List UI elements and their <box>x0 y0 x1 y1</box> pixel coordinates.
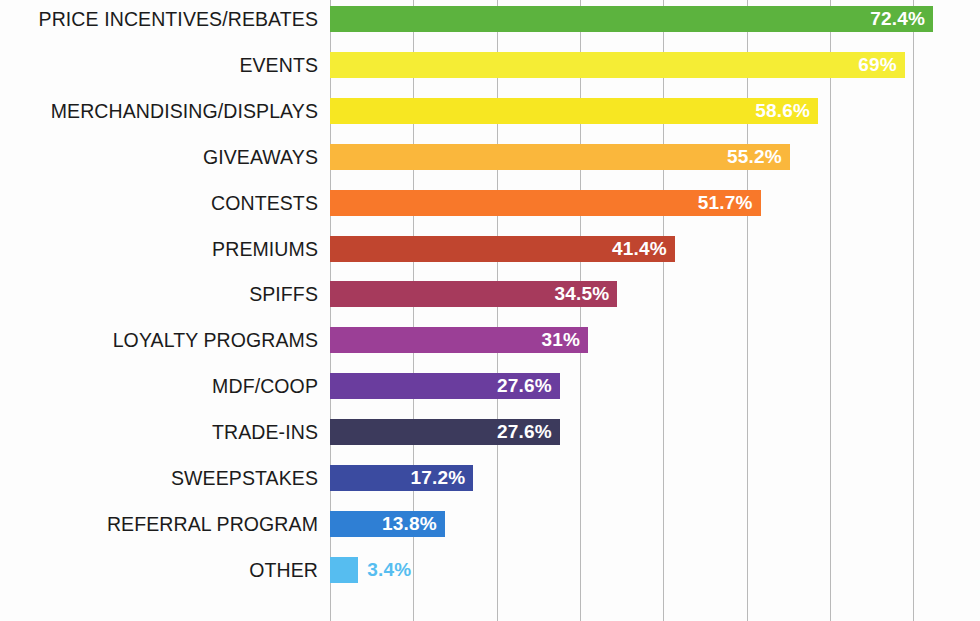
category-label: GIVEAWAYS <box>0 144 318 170</box>
bar-value-label: 31% <box>542 329 589 351</box>
bar-container: 27.6% <box>330 419 560 445</box>
category-label: REFERRAL PROGRAM <box>0 511 318 537</box>
category-label: MDF/COOP <box>0 373 318 399</box>
bar[interactable]: 27.6% <box>330 419 560 445</box>
bar-container: 55.2% <box>330 144 790 170</box>
bar-value-label: 51.7% <box>698 192 761 214</box>
bar-row: SWEEPSTAKES17.2% <box>0 465 980 491</box>
category-label: EVENTS <box>0 52 318 78</box>
bar-container: 72.4% <box>330 6 933 32</box>
bar[interactable]: 31% <box>330 327 588 353</box>
bar-value-label: 58.6% <box>755 100 818 122</box>
bar-value-label: 55.2% <box>727 146 790 168</box>
bar[interactable]: 55.2% <box>330 144 790 170</box>
category-label: PRICE INCENTIVES/REBATES <box>0 6 318 32</box>
bar-row: LOYALTY PROGRAMS31% <box>0 327 980 353</box>
bar-row: GIVEAWAYS55.2% <box>0 144 980 170</box>
bar-container: 58.6% <box>330 98 818 124</box>
bar-value-label: 41.4% <box>612 238 675 260</box>
bar-row: REFERRAL PROGRAM13.8% <box>0 511 980 537</box>
category-label: CONTESTS <box>0 190 318 216</box>
bar-row: OTHER3.4% <box>0 557 980 583</box>
bar-value-label: 13.8% <box>382 513 445 535</box>
bar-container: 13.8% <box>330 511 445 537</box>
bar-container: 31% <box>330 327 588 353</box>
bar-row: PREMIUMS41.4% <box>0 236 980 262</box>
bar-value-label: 27.6% <box>497 375 560 397</box>
bar-container: 41.4% <box>330 236 675 262</box>
bar[interactable]: 58.6% <box>330 98 818 124</box>
category-label: LOYALTY PROGRAMS <box>0 327 318 353</box>
category-label: TRADE-INS <box>0 419 318 445</box>
bar[interactable]: 13.8% <box>330 511 445 537</box>
bar-value-label: 3.4% <box>358 559 411 581</box>
bar-row: CONTESTS51.7% <box>0 190 980 216</box>
bar[interactable]: 27.6% <box>330 373 560 399</box>
bar[interactable]: 3.4% <box>330 557 358 583</box>
bar-value-label: 17.2% <box>410 467 473 489</box>
bar-container: 3.4% <box>330 557 358 583</box>
bar-container: 27.6% <box>330 373 560 399</box>
bar-row: EVENTS69% <box>0 52 980 78</box>
bar-row: MDF/COOP27.6% <box>0 373 980 399</box>
bar-row: MERCHANDISING/DISPLAYS58.6% <box>0 98 980 124</box>
category-label: MERCHANDISING/DISPLAYS <box>0 98 318 124</box>
bar[interactable]: 51.7% <box>330 190 761 216</box>
bar-container: 69% <box>330 52 905 78</box>
bar[interactable]: 17.2% <box>330 465 473 491</box>
bar-chart: PRICE INCENTIVES/REBATES72.4%EVENTS69%ME… <box>0 0 980 621</box>
bar-value-label: 34.5% <box>555 283 618 305</box>
bar-value-label: 72.4% <box>870 8 933 30</box>
bar-value-label: 27.6% <box>497 421 560 443</box>
category-label: SPIFFS <box>0 281 318 307</box>
bar[interactable]: 72.4% <box>330 6 933 32</box>
bar-value-label: 69% <box>858 54 905 76</box>
bar[interactable]: 69% <box>330 52 905 78</box>
bar-container: 51.7% <box>330 190 761 216</box>
bar-row: TRADE-INS27.6% <box>0 419 980 445</box>
bar-container: 17.2% <box>330 465 473 491</box>
bar-row: PRICE INCENTIVES/REBATES72.4% <box>0 6 980 32</box>
bar[interactable]: 34.5% <box>330 281 617 307</box>
category-label: PREMIUMS <box>0 236 318 262</box>
category-label: SWEEPSTAKES <box>0 465 318 491</box>
category-label: OTHER <box>0 557 318 583</box>
bar-row: SPIFFS34.5% <box>0 281 980 307</box>
bar[interactable]: 41.4% <box>330 236 675 262</box>
bar-container: 34.5% <box>330 281 617 307</box>
